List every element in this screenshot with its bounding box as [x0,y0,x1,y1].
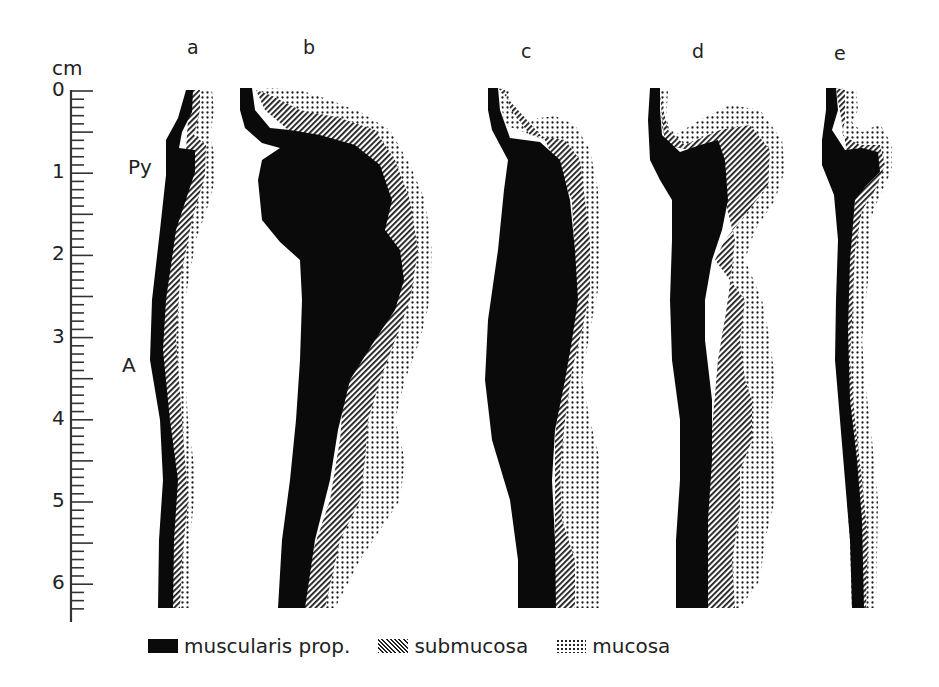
antrum-label: A [122,355,136,375]
panel-label-e: e [834,42,846,64]
profile-c [485,88,600,608]
scale-tick-label: 3 [52,326,65,346]
profile-e [822,88,892,608]
panel-label-c: c [521,40,531,62]
profile-d [648,88,785,608]
mucosa-swatch-icon [556,639,586,653]
legend: muscularis prop. submucosa mucosa [148,634,698,658]
legend-label-muscularis: muscularis prop. [184,634,350,658]
scale-tick-label: 4 [52,408,65,428]
muscularis-swatch-icon [148,639,178,653]
cm-ruler [71,90,93,622]
pylorus-label: Py [128,157,152,177]
figure-canvas [0,0,939,687]
legend-item-mucosa: mucosa [556,634,670,658]
legend-item-submucosa: submucosa [378,634,528,658]
panel-label-b: b [303,36,315,58]
panel-label-a: a [187,36,199,58]
scale-tick-label: 1 [52,161,65,181]
legend-label-mucosa: mucosa [592,634,670,658]
scale-tick-label: 2 [52,243,65,263]
profile-b [240,88,432,608]
scale-unit-label: cm [52,58,82,78]
profile-a [150,90,216,608]
scale-tick-label: 6 [52,572,65,592]
legend-label-submucosa: submucosa [414,634,528,658]
legend-item-muscularis: muscularis prop. [148,634,350,658]
submucosa-swatch-icon [378,639,408,653]
scale-tick-label: 5 [52,490,65,510]
panel-label-d: d [692,40,704,62]
scale-tick-label: 0 [52,79,65,99]
